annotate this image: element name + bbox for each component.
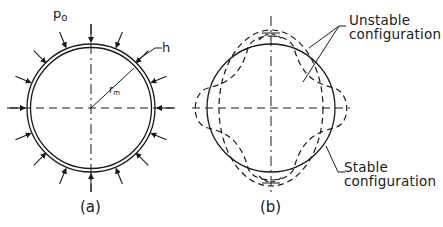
figure-b [192,16,350,194]
unstable-configuration-label: Unstable configuration [349,13,441,41]
unstable-leader-1 [309,26,339,48]
radius-label: rm [109,85,120,97]
figure-a-caption: (a) [80,200,101,215]
stable-leader [326,146,345,172]
pressure-label: po [53,7,67,23]
figure-b-caption: (b) [260,200,281,215]
figure-a [7,24,175,192]
thickness-label: h [162,41,170,54]
stable-configuration-label: Stable configuration [344,160,436,188]
